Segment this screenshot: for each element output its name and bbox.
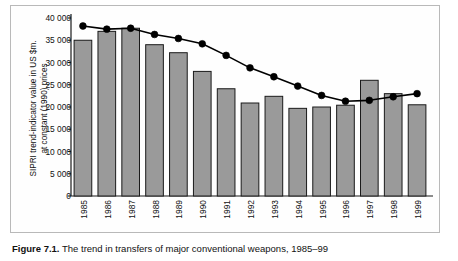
trend-marker: [342, 98, 349, 105]
x-tick-label: 1992: [246, 200, 256, 219]
bar: [193, 71, 211, 196]
bar: [146, 45, 164, 196]
chart-bars: [74, 28, 426, 196]
x-tick-label: 1993: [270, 200, 280, 219]
y-tick-label: 25 000: [45, 80, 71, 90]
bar: [98, 31, 116, 196]
trend-marker: [247, 64, 254, 71]
bar: [384, 94, 402, 196]
x-tick-label: 1990: [198, 200, 208, 219]
x-tick-label: 1985: [79, 200, 89, 219]
x-tick-label: 1986: [103, 200, 113, 219]
trend-marker: [294, 83, 301, 90]
x-tick-label: 1991: [222, 200, 232, 219]
y-tick-label: 15 000: [45, 124, 71, 134]
x-tick-label: 1987: [127, 200, 137, 219]
x-tick-label: 1998: [389, 200, 399, 219]
trend-marker: [223, 52, 230, 59]
bar: [313, 107, 331, 196]
trend-marker: [80, 23, 87, 30]
trend-marker: [390, 93, 397, 100]
x-tick-label: 1999: [413, 200, 423, 219]
x-tick-label: 1988: [151, 200, 161, 219]
bar: [337, 105, 355, 196]
y-tick-label-group: 05 00010 00015 00020 00025 00030 00035 0…: [11, 6, 71, 232]
bar: [74, 40, 92, 196]
figure-frame: SIPRI trend-indicator value in US $m. at…: [10, 5, 440, 233]
figure-caption: Figure 7.1. The trend in transfers of ma…: [12, 243, 452, 261]
bar: [408, 105, 426, 196]
y-tick-label: 40 000: [45, 13, 71, 23]
x-tick-label: 1997: [365, 200, 375, 219]
y-tick-label: 5 000: [50, 169, 71, 179]
y-tick-label: 30 000: [45, 58, 71, 68]
trend-marker: [414, 90, 421, 97]
trend-marker: [318, 92, 325, 99]
trend-marker: [270, 73, 277, 80]
bar: [170, 53, 188, 196]
y-tick-label: 20 000: [45, 102, 71, 112]
x-tick-label: 1989: [174, 200, 184, 219]
bar: [122, 28, 140, 196]
bar: [241, 103, 259, 196]
trend-marker: [127, 25, 134, 32]
x-tick-label: 1996: [341, 200, 351, 219]
bar: [217, 89, 235, 196]
trend-marker: [199, 40, 206, 47]
trend-marker: [175, 35, 182, 42]
bar: [289, 108, 307, 196]
trend-marker: [366, 97, 373, 104]
y-tick-label: 10 000: [45, 147, 71, 157]
x-tick-label: 1995: [318, 200, 328, 219]
bar: [265, 96, 283, 196]
caption-number: Figure 7.1.: [12, 243, 60, 254]
chart-plot: SIPRI trend-indicator value in US $m. at…: [11, 6, 439, 232]
trend-marker: [103, 26, 110, 33]
y-tick-label: 35 000: [45, 35, 71, 45]
trend-marker: [151, 31, 158, 38]
x-tick-label: 1994: [294, 200, 304, 219]
caption-text: The trend in transfers of major conventi…: [62, 243, 328, 254]
y-tick-label: 0: [66, 191, 71, 201]
